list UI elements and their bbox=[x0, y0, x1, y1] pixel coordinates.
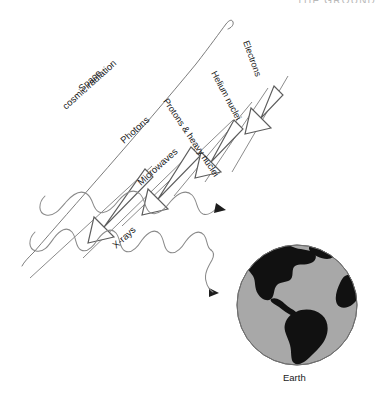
cosmic-radiation-diagram: Space cosmic radiation Photons Microwave… bbox=[0, 0, 384, 397]
microwave-arrowhead bbox=[214, 203, 226, 213]
label-protons-heavy-nuclei: Protons & heavy nuclei bbox=[161, 97, 221, 179]
separator-photons bbox=[30, 166, 152, 278]
label-electrons: Electrons bbox=[241, 39, 263, 78]
label-cosmic-radiation: cosmic radiation bbox=[60, 57, 118, 111]
earth-globe bbox=[237, 242, 362, 365]
label-earth: Earth bbox=[283, 372, 306, 383]
xray-wave-tail bbox=[205, 250, 213, 292]
label-helium-nuclei: Helium nuclei bbox=[209, 69, 243, 121]
particle-arrow-4 bbox=[245, 86, 283, 134]
separator-microwaves bbox=[83, 148, 196, 258]
label-photons: Photons bbox=[118, 114, 151, 146]
